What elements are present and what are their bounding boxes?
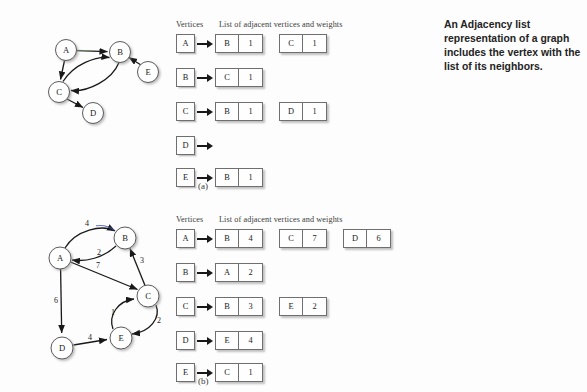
edge-b-ad bbox=[61, 269, 62, 333]
adj-cell-weight: 3 bbox=[239, 298, 262, 315]
adj-a-vertex-3: D bbox=[176, 136, 195, 155]
adj-b-cells-3: E 4 bbox=[215, 331, 279, 350]
adj-a-row-1: B C 1 bbox=[176, 68, 279, 87]
arrow-right-icon bbox=[195, 331, 215, 350]
edge-a-eb bbox=[129, 58, 141, 66]
edge-weight-ec: 1 bbox=[111, 308, 115, 317]
adj-cell-weight: 2 bbox=[239, 264, 262, 281]
svg-text:A: A bbox=[57, 253, 64, 263]
adj-a-vertex-0: A bbox=[176, 34, 195, 53]
adj-cell: C 1 bbox=[279, 34, 327, 53]
graph-a-panel: A B C D E bbox=[0, 0, 175, 180]
adj-b-vertex-1: B bbox=[176, 263, 195, 282]
edge-a-ab-tint bbox=[77, 50, 92, 51]
edge-a-cd bbox=[67, 99, 83, 108]
svg-text:D: D bbox=[90, 108, 96, 118]
adj-cell-vertex: D bbox=[280, 103, 303, 120]
graph-b-node-B: B bbox=[114, 227, 136, 249]
arrow-right-icon bbox=[195, 34, 215, 53]
adj-a-vertex-4: E bbox=[176, 168, 195, 187]
adj-cell-weight: 1 bbox=[239, 35, 262, 52]
adj-cell-weight: 1 bbox=[239, 364, 262, 381]
adj-cell-vertex: B bbox=[216, 298, 239, 315]
adj-a-cells-0: B 1 C 1 bbox=[215, 34, 343, 53]
adj-a-row-4: E B 1 bbox=[176, 168, 279, 187]
adj-b-row-3: D E 4 bbox=[176, 331, 279, 350]
graph-b-node-A: A bbox=[49, 247, 71, 269]
adj-a-header-vertices: Vertices bbox=[176, 20, 203, 29]
adj-b-cells-2: B 3 E 2 bbox=[215, 297, 343, 316]
arrow-right-icon bbox=[195, 136, 215, 155]
adj-b-cells-0: B 4 C 7 D 6 bbox=[215, 229, 407, 248]
svg-text:B: B bbox=[122, 233, 128, 243]
adj-cell-vertex: B bbox=[216, 169, 239, 186]
adjacency-table-b: Vertices List of adjacent vertices and w… bbox=[176, 215, 436, 375]
adj-cell: B 3 bbox=[215, 297, 263, 316]
edge-b-ce bbox=[132, 305, 157, 334]
adj-cell: B 1 bbox=[215, 102, 263, 121]
graph-a-node-E: E bbox=[138, 62, 159, 83]
adj-cell-weight: 4 bbox=[239, 230, 262, 247]
adj-cell: B 4 bbox=[215, 229, 263, 248]
adj-cell-vertex: C bbox=[280, 35, 303, 52]
adj-cell: D 6 bbox=[343, 229, 391, 248]
adj-a-cells-1: C 1 bbox=[215, 68, 279, 87]
edge-b-ba bbox=[72, 246, 116, 260]
adj-cell: B 1 bbox=[215, 34, 263, 53]
adj-a-row-3: D bbox=[176, 136, 215, 155]
adj-cell-vertex: B bbox=[216, 230, 239, 247]
edge-weight-ba: 2 bbox=[97, 248, 101, 257]
adj-cell-weight: 7 bbox=[303, 230, 326, 247]
adj-b-vertex-2: C bbox=[176, 297, 195, 316]
adj-cell: C 7 bbox=[279, 229, 327, 248]
graph-a-node-D: D bbox=[83, 103, 104, 124]
edge-a-ac bbox=[61, 61, 65, 80]
adj-cell-vertex: B bbox=[216, 103, 239, 120]
edge-b-ab bbox=[65, 228, 115, 248]
adj-b-header-vertices: Vertices bbox=[176, 215, 203, 224]
edge-b-ec bbox=[112, 299, 134, 329]
arrow-right-icon bbox=[195, 229, 215, 248]
edge-a-cb bbox=[63, 57, 110, 81]
graph-b-panel: 4 2 7 3 6 4 1 2 A bbox=[0, 210, 175, 392]
adj-cell-weight: 4 bbox=[239, 332, 262, 349]
adj-cell-weight: 1 bbox=[239, 169, 262, 186]
adj-cell: D 1 bbox=[279, 102, 327, 121]
edge-b-ac bbox=[71, 262, 138, 290]
edge-weight-ac: 7 bbox=[96, 261, 100, 270]
adj-a-row-0: A B 1 C 1 bbox=[176, 34, 343, 53]
adj-cell-vertex: E bbox=[216, 332, 239, 349]
adj-b-vertex-0: A bbox=[176, 229, 195, 248]
adj-b-vertex-4: E bbox=[176, 363, 195, 382]
svg-text:D: D bbox=[59, 343, 65, 353]
adj-a-row-2: C B 1 D 1 bbox=[176, 102, 343, 121]
svg-text:B: B bbox=[117, 47, 123, 57]
adj-b-row-1: B A 2 bbox=[176, 263, 279, 282]
graph-a-node-C: C bbox=[49, 82, 70, 103]
edge-weight-de: 4 bbox=[88, 333, 92, 342]
adj-cell: A 2 bbox=[215, 263, 263, 282]
svg-text:A: A bbox=[63, 45, 70, 55]
adj-cell-vertex: C bbox=[216, 364, 239, 381]
adj-b-row-0: A B 4 C 7 D 6 bbox=[176, 229, 407, 248]
adj-cell: E 2 bbox=[279, 297, 327, 316]
graph-b-node-D: D bbox=[51, 337, 73, 359]
edge-b-cb bbox=[130, 249, 145, 286]
caption-b: (b) bbox=[198, 376, 209, 386]
adjacency-table-a: Vertices List of adjacent vertices and w… bbox=[176, 20, 426, 180]
graph-a-diagram: A B C D E bbox=[0, 0, 175, 180]
svg-text:E: E bbox=[118, 333, 123, 343]
figure-page: A B C D E Vertices List of adjacent vert… bbox=[0, 0, 587, 392]
graph-a-node-A: A bbox=[56, 40, 77, 61]
arrow-right-icon bbox=[195, 297, 215, 316]
side-note-text: An Adjacency list representation of a gr… bbox=[444, 18, 584, 74]
adj-cell-vertex: D bbox=[344, 230, 367, 247]
adj-a-header-list: List of adjacent vertices and weights bbox=[219, 20, 343, 29]
adj-cell-weight: 1 bbox=[239, 103, 262, 120]
adj-b-row-2: C B 3 E 2 bbox=[176, 297, 343, 316]
adj-b-vertex-3: D bbox=[176, 331, 195, 350]
adj-cell: E 4 bbox=[215, 331, 263, 350]
arrow-right-icon bbox=[195, 263, 215, 282]
adj-cell-vertex: A bbox=[216, 264, 239, 281]
adj-a-cells-2: B 1 D 1 bbox=[215, 102, 343, 121]
